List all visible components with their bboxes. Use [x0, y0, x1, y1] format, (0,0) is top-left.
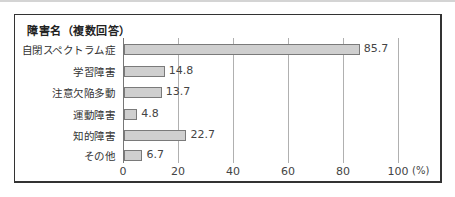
value-label: 4.8 — [141, 107, 159, 120]
x-tick-label: 0 — [120, 165, 127, 178]
category-label: 運動障害 — [73, 107, 115, 122]
x-tick-label: 20 — [171, 165, 185, 178]
bar — [124, 87, 162, 98]
top-rule — [0, 0, 455, 2]
category-label: 注意欠陥多動 — [52, 85, 115, 100]
chart-title: 障害名（複数回答） — [27, 22, 131, 38]
bar — [124, 44, 360, 55]
value-label: 14.8 — [169, 64, 194, 77]
gridline-80 — [343, 38, 344, 163]
category-label: 知的障害 — [73, 128, 115, 143]
value-label: 6.7 — [146, 148, 164, 161]
bar — [124, 109, 137, 120]
x-tick-label: 100 — [388, 165, 409, 178]
y-axis-line — [123, 38, 124, 163]
category-label: 自閉スペクトラム症 — [22, 42, 116, 57]
x-tick-label: 80 — [336, 165, 350, 178]
bar — [124, 66, 165, 77]
gridline-20 — [178, 38, 179, 163]
x-unit-label: (%) — [412, 165, 429, 176]
x-tick-label: 60 — [281, 165, 295, 178]
value-label: 13.7 — [166, 85, 191, 98]
bar — [124, 150, 142, 161]
gridline-60 — [288, 38, 289, 163]
value-label: 85.7 — [364, 42, 389, 55]
gridline-40 — [233, 38, 234, 163]
category-label: その他 — [84, 148, 116, 163]
gridline-100 — [398, 38, 399, 163]
category-label: 学習障害 — [73, 64, 115, 79]
bar — [124, 130, 186, 141]
x-tick-label: 40 — [226, 165, 240, 178]
value-label: 22.7 — [190, 128, 215, 141]
